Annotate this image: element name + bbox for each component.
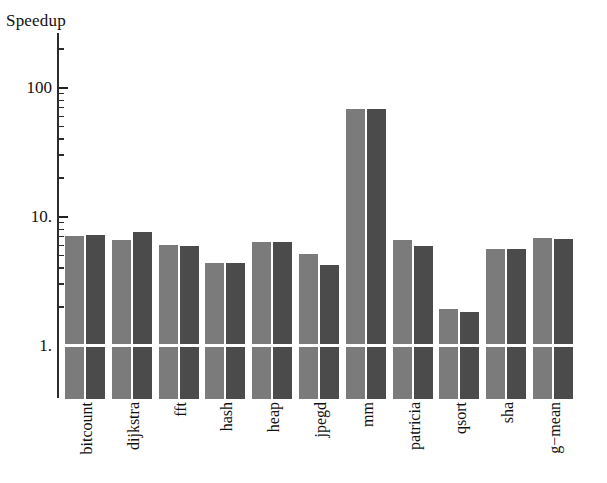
x-axis-label-text: fft <box>173 402 189 417</box>
x-axis-label-text: jpegd <box>313 402 329 438</box>
bar <box>205 263 224 399</box>
x-axis-label-text: heap <box>266 402 282 432</box>
x-axis-label: heap <box>266 402 282 432</box>
bar <box>252 242 271 399</box>
x-axis-label: dijkstra <box>126 402 142 450</box>
bar <box>554 239 573 399</box>
bar <box>112 240 131 399</box>
x-axis-label: sha <box>500 402 516 423</box>
bar <box>414 246 433 399</box>
x-axis-label: bitcount <box>79 402 95 454</box>
y-axis-title: Speedup <box>6 12 66 29</box>
bar <box>273 242 292 399</box>
bar <box>133 232 152 399</box>
x-axis-label-text: dijkstra <box>126 402 142 450</box>
bar <box>346 109 365 399</box>
x-axis-label: qsort <box>453 402 469 434</box>
bar <box>180 246 199 399</box>
x-axis-label-text: sha <box>500 402 516 423</box>
unity-gridline <box>59 344 595 347</box>
bar <box>533 238 552 399</box>
bar <box>367 109 386 399</box>
x-axis-label-text: mm <box>360 402 376 427</box>
bar <box>86 235 105 399</box>
x-axis-label-text: qsort <box>453 402 469 434</box>
x-axis-label-text: g−mean <box>547 402 563 454</box>
x-axis-label: jpegd <box>313 402 329 438</box>
bar <box>320 265 339 399</box>
x-axis-label: patricia <box>407 402 423 450</box>
x-axis-label-text: bitcount <box>79 402 95 454</box>
bar <box>65 236 84 399</box>
bar <box>460 312 479 399</box>
bar <box>507 249 526 399</box>
bar <box>439 309 458 399</box>
x-axis-label: hash <box>219 402 235 431</box>
x-axis-label: fft <box>173 402 189 417</box>
y-tick-label-1: 1. <box>39 337 52 354</box>
x-axis-label-text: patricia <box>407 402 423 450</box>
bar <box>226 263 245 399</box>
bar <box>299 254 318 399</box>
bar <box>159 245 178 399</box>
plot-area: 1.10.100 <box>57 33 595 398</box>
x-axis-label: mm <box>360 402 376 427</box>
bar <box>393 240 412 399</box>
bar <box>486 249 505 399</box>
y-tick-label-100: 100 <box>27 79 53 96</box>
y-axis-tick-labels: 1.10.100 <box>2 33 52 398</box>
x-axis-label-text: hash <box>219 402 235 431</box>
x-axis-label: g−mean <box>547 402 563 454</box>
speedup-bar-chart: Speedup 1.10.100 bitcountdijkstraffthash… <box>0 0 607 483</box>
y-tick-label-10: 10. <box>31 208 52 225</box>
x-axis-category-labels: bitcountdijkstraffthashheapjpegdmmpatric… <box>57 400 595 483</box>
